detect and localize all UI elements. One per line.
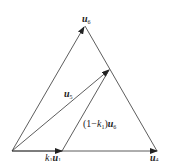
triangle-right-edge [85,26,157,151]
vector-one-minus-k1-u6 [62,70,109,151]
vector-diagram: u6 u5 (1−k1)u6 k1u1 u4 [0,0,174,161]
label-u6: u6 [82,13,91,25]
label-u4: u4 [150,152,159,161]
label-u5: u5 [64,88,73,100]
label-k1u1: k1u1 [45,152,61,161]
label-one-minus-k1-u6: (1−k1)u6 [83,118,116,130]
vector-u5 [12,70,109,151]
